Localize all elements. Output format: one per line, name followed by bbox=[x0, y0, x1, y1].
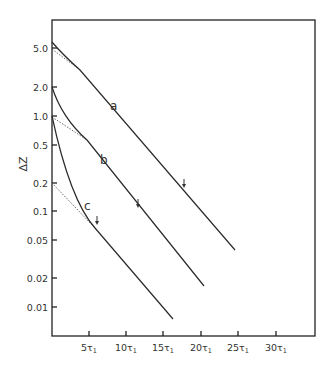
series-c-label: c bbox=[84, 199, 91, 213]
series-c-line bbox=[52, 116, 173, 319]
y-tick-label: 0.5 bbox=[33, 140, 48, 151]
arrow-marker-icon bbox=[95, 216, 99, 225]
y-tick-label: 0.01 bbox=[27, 302, 48, 313]
y-tick-label: 0.05 bbox=[27, 235, 48, 246]
y-tick-label: 2.0 bbox=[33, 82, 48, 93]
x-tick-label: 5τ1 bbox=[81, 342, 97, 355]
series-b-line bbox=[52, 87, 204, 286]
x-tick-label: 10τ1 bbox=[115, 342, 137, 355]
series-a-label: a bbox=[110, 99, 117, 113]
decay-chart: 5.0 2.0 1.0 0.5 0.2 0.1 0.05 0.02 0.01 Δ… bbox=[0, 0, 331, 369]
x-tick-label: 30τ1 bbox=[265, 342, 287, 355]
y-axis-label: ΔZ bbox=[17, 156, 30, 172]
y-tick-label: 1.0 bbox=[33, 111, 48, 122]
y-tick-label: 5.0 bbox=[33, 43, 48, 54]
x-tick-label: 25τ1 bbox=[227, 342, 249, 355]
x-axis: 5τ1 10τ1 15τ1 20τ1 25τ1 30τ1 bbox=[81, 331, 287, 355]
y-tick-label: 0.2 bbox=[33, 178, 48, 189]
y-axis: 5.0 2.0 1.0 0.5 0.2 0.1 0.05 0.02 0.01 Δ… bbox=[17, 43, 57, 313]
series-b: b bbox=[52, 87, 204, 286]
y-tick-label: 0.1 bbox=[33, 206, 48, 217]
arrow-marker-icon bbox=[136, 199, 140, 208]
series-a-line bbox=[52, 42, 235, 250]
series-b-label: b bbox=[100, 153, 108, 167]
series-c: c bbox=[52, 116, 173, 319]
plot-frame bbox=[52, 20, 315, 336]
y-tick-label: 0.02 bbox=[27, 273, 48, 284]
x-tick-label: 20τ1 bbox=[190, 342, 212, 355]
arrow-marker-icon bbox=[182, 179, 186, 188]
x-tick-label: 15τ1 bbox=[152, 342, 174, 355]
series-a: a bbox=[52, 42, 235, 250]
